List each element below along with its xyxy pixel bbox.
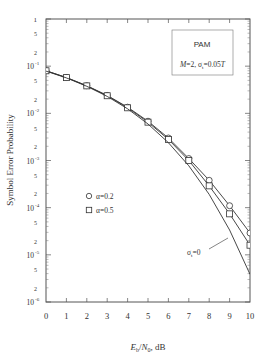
x-tick-label: 4: [125, 311, 130, 321]
x-tick-label: 7: [187, 311, 191, 321]
legend-square-icon: [86, 207, 91, 212]
series-line: [46, 71, 250, 233]
y-tick-label: 2: [34, 97, 37, 103]
y-tick-label: 1: [34, 16, 38, 24]
square-marker: [247, 242, 253, 248]
y-tick-exponent: -5: [35, 250, 40, 255]
curve-annotation: σt=0: [187, 238, 228, 258]
square-marker: [43, 68, 49, 74]
series-line: [46, 71, 250, 245]
y-tick-label: 5: [34, 267, 37, 273]
x-tick-label: 0: [44, 311, 48, 321]
legend-label-a: α=0.2: [96, 192, 114, 201]
y-tick-label: 10: [27, 157, 35, 166]
x-axis-label: Eb/N0, dB: [129, 342, 165, 353]
y-tick-label: 5: [34, 126, 37, 132]
curve-label: σt=0: [187, 248, 201, 258]
y-axis-label: Symbol Error Probability: [5, 114, 15, 206]
y-tick-label: 10: [27, 251, 35, 260]
square-marker: [227, 211, 233, 217]
x-tick-label: 5: [146, 311, 150, 321]
y-tick-label: 5: [34, 78, 37, 84]
y-tick-label: 2: [34, 144, 37, 150]
y-tick-label: 2: [34, 50, 37, 56]
circle-marker: [227, 203, 233, 209]
y-tick-label: 10: [27, 62, 35, 71]
y-tick-label: 2: [34, 191, 37, 197]
error-probability-chart: 01234567891015210-15210-25210-35210-4521…: [0, 0, 265, 360]
legend: α=0.2α=0.5: [86, 192, 113, 215]
y-tick-exponent: -6: [35, 297, 40, 302]
parameter-box: PAMM=2, σt=0.05T: [172, 30, 233, 75]
y-tick-exponent: -1: [35, 61, 40, 66]
x-tick-label: 3: [105, 311, 109, 321]
y-tick-label: 10: [27, 298, 35, 307]
y-tick-label: 10: [27, 204, 35, 213]
y-tick-exponent: -4: [35, 203, 40, 208]
series-group: [43, 68, 253, 275]
legend-circle-icon: [86, 193, 91, 198]
y-tick-label: 2: [34, 239, 37, 245]
x-tick-label: 1: [64, 311, 68, 321]
square-marker: [206, 183, 212, 189]
box-title: PAM: [194, 40, 211, 49]
x-tick-label: 8: [207, 311, 211, 321]
circle-marker: [206, 177, 212, 183]
square-marker: [165, 136, 171, 142]
y-tick-exponent: -2: [35, 108, 40, 113]
y-tick-label: 5: [34, 173, 37, 179]
y-tick-label: 10: [27, 109, 35, 118]
square-marker: [186, 158, 192, 164]
y-tick-exponent: -3: [35, 156, 40, 161]
x-tick-label: 9: [227, 311, 231, 321]
series-line: [46, 71, 250, 274]
x-tick-label: 10: [246, 311, 255, 321]
y-tick-label: 5: [34, 220, 37, 226]
circle-marker: [247, 230, 253, 236]
x-tick-label: 6: [166, 311, 170, 321]
y-tick-label: 5: [34, 31, 37, 37]
y-tick-label: 2: [34, 286, 37, 292]
pointer-line: [209, 238, 228, 249]
legend-label-b: α=0.5: [96, 206, 114, 215]
x-tick-label: 2: [85, 311, 89, 321]
